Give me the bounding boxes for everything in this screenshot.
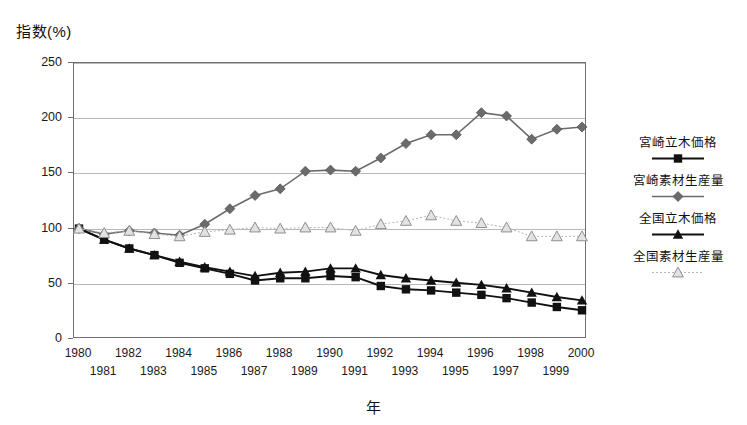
open-triangle-marker bbox=[199, 227, 210, 237]
legend-entry[interactable]: 宮崎立木価格 bbox=[614, 136, 742, 165]
x-axis-caption: 年 bbox=[0, 396, 747, 417]
x-tick-label: 1995 bbox=[442, 364, 469, 378]
open-triangle-marker bbox=[476, 218, 487, 228]
legend-marker-sample bbox=[614, 266, 742, 279]
square-marker bbox=[326, 272, 334, 280]
open-triangle-marker bbox=[426, 210, 437, 220]
square-marker bbox=[377, 282, 385, 290]
x-tick-label: 1988 bbox=[266, 346, 293, 360]
y-tick-mark bbox=[68, 338, 73, 339]
x-tick-label: 1994 bbox=[417, 346, 444, 360]
square-marker bbox=[452, 288, 460, 296]
diamond-marker bbox=[673, 192, 683, 202]
series-lines bbox=[74, 63, 587, 339]
diamond-marker bbox=[351, 166, 361, 176]
diamond-marker bbox=[401, 139, 411, 149]
x-tick-label: 1982 bbox=[115, 346, 142, 360]
diamond-marker bbox=[225, 204, 235, 214]
x-tick-label: 1986 bbox=[216, 346, 243, 360]
x-tick-label: 1998 bbox=[517, 346, 544, 360]
diamond-marker bbox=[275, 184, 285, 194]
x-tick-label: 1989 bbox=[291, 364, 318, 378]
x-tick-label: 1997 bbox=[492, 364, 519, 378]
open-triangle-marker bbox=[350, 225, 361, 235]
square-marker bbox=[528, 298, 536, 306]
legend-marker-sample bbox=[614, 152, 742, 165]
legend-label: 宮崎素材生産量 bbox=[614, 174, 742, 189]
open-triangle-marker bbox=[225, 224, 236, 234]
x-tick-label: 1996 bbox=[467, 346, 494, 360]
legend-marker-sample bbox=[614, 228, 742, 241]
x-tick-label: 1992 bbox=[366, 346, 393, 360]
diamond-marker bbox=[326, 165, 336, 175]
square-marker bbox=[578, 306, 586, 314]
legend: 宮崎立木価格宮崎素材生産量全国立木価格全国素材生産量 bbox=[614, 136, 742, 288]
open-triangle-marker bbox=[526, 231, 537, 241]
open-triangle-marker bbox=[551, 231, 562, 241]
square-marker bbox=[553, 303, 561, 311]
x-tick-label: 1987 bbox=[241, 364, 268, 378]
x-tick-label: 1990 bbox=[316, 346, 343, 360]
diamond-marker bbox=[577, 122, 587, 132]
y-tick-label: 0 bbox=[10, 331, 62, 345]
x-tick-label: 1984 bbox=[165, 346, 192, 360]
square-marker bbox=[477, 291, 485, 299]
open-triangle-marker bbox=[250, 222, 261, 232]
square-marker bbox=[674, 154, 682, 162]
diamond-marker bbox=[376, 153, 386, 163]
diamond-marker bbox=[300, 166, 310, 176]
square-marker bbox=[351, 273, 359, 281]
y-tick-label: 50 bbox=[10, 276, 62, 290]
legend-marker-sample bbox=[614, 190, 742, 203]
y-tick-label: 200 bbox=[10, 110, 62, 124]
chart-page: 指数(%) 050100150200250 198019811982198319… bbox=[0, 0, 747, 425]
series-diamond bbox=[74, 108, 587, 241]
x-tick-label: 2000 bbox=[568, 346, 595, 360]
diamond-marker bbox=[552, 124, 562, 134]
x-tick-label: 1985 bbox=[190, 364, 217, 378]
legend-label: 全国素材生産量 bbox=[614, 250, 742, 265]
legend-label: 全国立木価格 bbox=[614, 212, 742, 227]
legend-label: 宮崎立木価格 bbox=[614, 136, 742, 151]
x-tick-label: 1981 bbox=[90, 364, 117, 378]
x-tick-label: 1999 bbox=[542, 364, 569, 378]
x-tick-label: 1980 bbox=[65, 346, 92, 360]
y-tick-label: 250 bbox=[10, 55, 62, 69]
x-tick-label: 1983 bbox=[140, 364, 167, 378]
legend-entry[interactable]: 全国立木価格 bbox=[614, 212, 742, 241]
x-tick-label: 1993 bbox=[392, 364, 419, 378]
square-marker bbox=[502, 294, 510, 302]
x-tick-label: 1991 bbox=[341, 364, 368, 378]
y-axis-caption: 指数(%) bbox=[16, 20, 72, 41]
legend-entry[interactable]: 全国素材生産量 bbox=[614, 250, 742, 279]
diamond-marker bbox=[250, 190, 260, 200]
diamond-marker bbox=[426, 130, 436, 140]
plot-area bbox=[73, 62, 586, 338]
series-open-triangle bbox=[74, 210, 588, 241]
y-tick-label: 100 bbox=[10, 221, 62, 235]
square-marker bbox=[427, 286, 435, 294]
square-marker bbox=[402, 285, 410, 293]
open-triangle-marker bbox=[275, 223, 286, 233]
y-tick-label: 150 bbox=[10, 165, 62, 179]
open-triangle-marker bbox=[300, 222, 311, 232]
legend-entry[interactable]: 宮崎素材生産量 bbox=[614, 174, 742, 203]
